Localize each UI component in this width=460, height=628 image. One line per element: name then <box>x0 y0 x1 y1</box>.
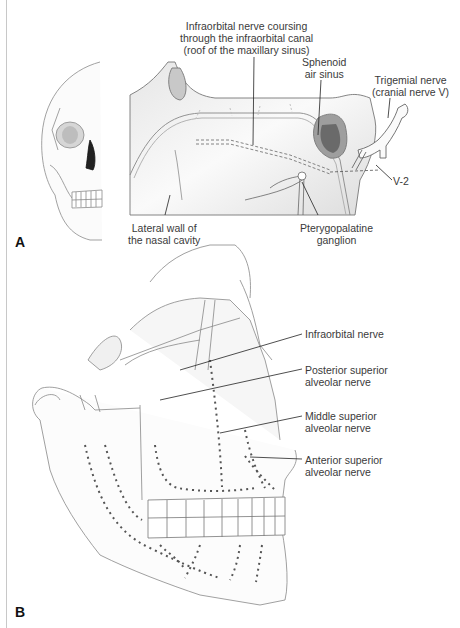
label-pterygopalatine-ganglion: Pterygopalatine ganglion <box>300 222 373 246</box>
label-sphenoid-air-sinus: Sphenoid air sinus <box>302 56 346 80</box>
teeth <box>148 497 285 538</box>
label-lateral-wall-nasal-cavity: Lateral wall of the nasal cavity <box>128 222 200 246</box>
skull-drawing <box>42 62 102 240</box>
panel-letter-b: B <box>15 604 25 620</box>
label-trigeminal-nerve: Trigemial nerve (cranial nerve V) <box>372 74 449 98</box>
label-infraorbital-canal: Infraorbital nerve coursing through the … <box>180 20 313 56</box>
label-v2: V-2 <box>393 175 409 187</box>
panel-letter-a: A <box>15 234 25 250</box>
label-posterior-superior-alveolar-nerve: Posterior superior alveolar nerve <box>305 364 388 388</box>
label-middle-superior-alveolar-nerve: Middle superior alveolar nerve <box>305 410 377 434</box>
label-anterior-superior-alveolar-nerve: Anterior superior alveolar nerve <box>305 454 383 478</box>
label-infraorbital-nerve: Infraorbital nerve <box>305 328 384 340</box>
